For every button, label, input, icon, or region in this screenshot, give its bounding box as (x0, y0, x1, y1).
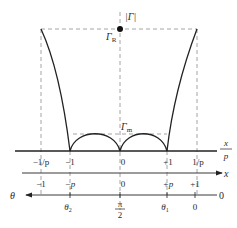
svg-text:−p: −p (65, 179, 76, 189)
left-rising-branch (41, 29, 70, 151)
x-ticks: −1 −p 0 +p +1 (36, 179, 200, 189)
gamma-r-point (117, 26, 123, 32)
y-axis-label: |Γ| (125, 11, 136, 22)
right-ripple-arc (120, 134, 167, 151)
right-rising-branch (167, 29, 197, 151)
svg-text:2: 2 (118, 210, 123, 220)
response-curve (41, 29, 197, 151)
svg-text:−1: −1 (36, 179, 46, 189)
x-axis-label: x (223, 168, 229, 179)
svg-text:θ2: θ2 (64, 202, 71, 213)
svg-text:0: 0 (121, 157, 126, 167)
svg-text:p: p (223, 151, 229, 161)
svg-text:+1: +1 (163, 157, 173, 167)
svg-text:−1/p: −1/p (33, 157, 50, 167)
gamma-m-label: Γm (120, 121, 133, 134)
gamma-r-label: ΓR (105, 31, 117, 44)
svg-text:0: 0 (193, 202, 198, 212)
svg-text:1/p: 1/p (192, 157, 204, 167)
svg-text:−1: −1 (65, 157, 75, 167)
svg-text:x: x (223, 138, 228, 148)
x-over-p-axis-label: x p (220, 138, 232, 161)
svg-text:0: 0 (121, 179, 126, 189)
svg-text:+p: +p (163, 179, 174, 189)
theta-axis-label: θ (10, 190, 15, 201)
theta-ticks: θ2 π 2 θ1 0 (64, 199, 197, 220)
x-over-p-ticks: −1/p −1 0 +1 1/p (33, 157, 205, 167)
svg-text:θ1: θ1 (161, 202, 168, 213)
gamma-response-diagram: |Γ| ΓR Γm x p x θ 0 −1/p −1 0 +1 1/p −1 … (0, 0, 237, 228)
left-ripple-arc (70, 134, 120, 151)
svg-text:π: π (118, 199, 123, 209)
svg-text:+1: +1 (190, 179, 200, 189)
theta-axis-right-zero: 0 (219, 190, 224, 201)
